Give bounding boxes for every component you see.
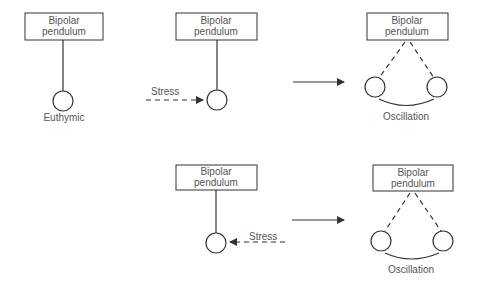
pendulum-bob-right	[427, 77, 447, 97]
caption-oscillation: Oscillation	[383, 111, 429, 122]
stress-label: Stress	[151, 86, 179, 97]
pendulum-rod-left-dashed	[385, 193, 410, 231]
box-label-line1: Bipolar	[48, 15, 80, 26]
box-label-line2: pendulum	[194, 26, 238, 37]
caption-euthymic: Euthymic	[43, 112, 84, 123]
pendulum-rod-left-dashed	[379, 42, 405, 78]
panel-euthymic: Bipolar pendulum Euthymic	[25, 13, 103, 123]
box-label-line2: pendulum	[42, 26, 86, 37]
box-label-line2: pendulum	[391, 178, 435, 189]
caption-oscillation: Oscillation	[388, 264, 434, 275]
stress-label: Stress	[249, 231, 277, 242]
panel-oscillation-top: Bipolar pendulum Oscillation	[365, 13, 448, 122]
oscillation-arc	[385, 253, 439, 259]
bipolar-pendulum-diagram: Bipolar pendulum Euthymic Bipolar pendul…	[0, 0, 480, 283]
panel-oscillation-bottom: Bipolar pendulum Oscillation	[371, 165, 453, 275]
pendulum-rod-right-dashed	[415, 193, 441, 231]
pendulum-bob	[206, 233, 226, 253]
panel-stress-right: Bipolar pendulum Stress	[146, 13, 257, 110]
pendulum-bob-left	[371, 231, 391, 251]
box-label-line1: Bipolar	[200, 166, 232, 177]
pendulum-rod-right-dashed	[410, 42, 434, 78]
pendulum-bob-left	[365, 77, 385, 97]
oscillation-arc	[379, 99, 434, 106]
box-label-line2: pendulum	[385, 26, 429, 37]
pendulum-bob-right	[433, 231, 453, 251]
pendulum-bob	[53, 91, 73, 111]
panel-stress-left: Bipolar pendulum Stress	[176, 165, 285, 253]
box-label-line1: Bipolar	[391, 15, 423, 26]
box-label-line1: Bipolar	[397, 167, 429, 178]
box-label-line1: Bipolar	[200, 15, 232, 26]
pendulum-bob	[207, 90, 227, 110]
box-label-line2: pendulum	[194, 177, 238, 188]
